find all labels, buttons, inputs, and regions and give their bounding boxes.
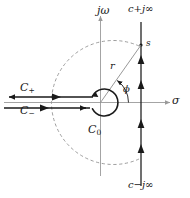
contour-upper-label-sub: + — [28, 86, 34, 95]
contour-diagram-canvas — [0, 0, 190, 198]
contour-upper-label: C+ — [20, 82, 35, 95]
bromwich-arrow-3 — [138, 119, 145, 128]
point-s-label: s — [146, 39, 151, 48]
contour-upper-direction-arrow — [52, 94, 61, 101]
real-axis-label: σ — [172, 95, 180, 106]
small-circle-label: C0 — [88, 124, 101, 137]
angle-label: ϕ — [123, 84, 130, 94]
radius-line-r — [101, 45, 142, 103]
bromwich-arrow-1 — [138, 55, 145, 64]
small-circle-label-sub: 0 — [96, 128, 101, 137]
bromwich-bottom-endpoint-label: c−j∞ — [128, 180, 153, 190]
bromwich-arrow-4 — [138, 144, 145, 153]
contour-lower-label-sub: − — [28, 109, 34, 118]
radius-label: r — [110, 61, 115, 71]
contour-lower-label: C− — [20, 105, 35, 118]
radius-angle-group — [101, 45, 142, 103]
imaginary-axis-label: jω — [97, 5, 109, 16]
bromwich-arrow-2 — [138, 80, 145, 89]
contour-lower-direction-arrow — [40, 105, 49, 112]
contour-diagram-figure: jω σ c+j∞ c−j∞ s r ϕ C+ C− C0 — [0, 0, 190, 198]
bromwich-top-endpoint-label: c+j∞ — [128, 4, 153, 14]
bromwich-line-group — [138, 22, 145, 186]
